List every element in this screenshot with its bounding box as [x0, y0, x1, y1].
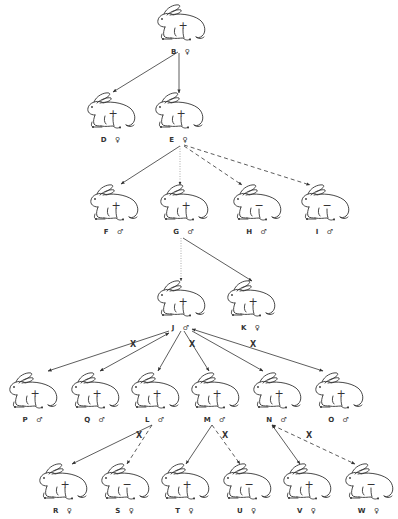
marker-plus-icon: + — [152, 387, 161, 400]
x-mark: X — [130, 340, 136, 349]
node-i: − I ♂ — [296, 182, 356, 240]
marker-plus-icon: + — [304, 478, 313, 491]
node-w: − W ♀ — [340, 461, 398, 519]
node-label: T ♀ — [156, 507, 216, 515]
node-label: D ♀ — [82, 136, 142, 144]
node-d: + D ♀ — [82, 90, 142, 148]
rabbit-icon: + — [156, 461, 216, 505]
rabbit-icon: + — [222, 278, 282, 322]
marker-minus-icon: − — [244, 478, 253, 491]
marker-minus-icon: − — [322, 199, 331, 212]
marker-plus-icon: + — [212, 387, 221, 400]
node-label: B ♀ — [152, 48, 212, 56]
rabbit-icon: − — [218, 461, 278, 505]
marker-plus-icon: + — [111, 199, 120, 212]
rabbit-icon: + — [248, 370, 308, 414]
node-label: H ♂ — [228, 228, 288, 236]
rabbit-icon: + — [150, 90, 210, 134]
marker-plus-icon: + — [30, 387, 39, 400]
node-label: M ♂ — [186, 416, 246, 424]
node-label: K ♀ — [222, 324, 282, 332]
node-g: + G ♂ — [155, 182, 215, 240]
node-b: + B ♀ — [152, 2, 212, 60]
rabbit-icon: + — [4, 370, 64, 414]
node-v: + V ♀ — [278, 461, 338, 519]
rabbit-icon: + — [310, 370, 370, 414]
node-label: O ♂ — [310, 416, 370, 424]
node-o: + O ♂ — [310, 370, 370, 428]
node-j: + J ♂ — [152, 278, 212, 336]
marker-plus-icon: + — [182, 478, 191, 491]
marker-plus-icon: + — [178, 295, 187, 308]
node-label: W ♀ — [340, 507, 398, 515]
rabbit-icon: + — [152, 278, 212, 322]
marker-minus-icon: − — [122, 478, 131, 491]
rabbit-icon: + — [82, 90, 142, 134]
rabbit-icon: + — [278, 461, 338, 505]
node-u: − U ♀ — [218, 461, 278, 519]
node-label: J ♂ — [152, 324, 212, 332]
marker-plus-icon: + — [92, 387, 101, 400]
marker-plus-icon: + — [336, 387, 345, 400]
marker-plus-icon: + — [108, 107, 117, 120]
edge-e-i — [184, 145, 310, 185]
node-label: U ♀ — [218, 507, 278, 515]
rabbit-icon: − — [228, 182, 288, 226]
marker-plus-icon: + — [178, 19, 187, 32]
rabbit-icon: + — [155, 182, 215, 226]
node-h: − H ♂ — [228, 182, 288, 240]
marker-minus-icon: − — [254, 199, 263, 212]
edge-e-h — [184, 146, 242, 185]
node-label: Q ♂ — [66, 416, 126, 424]
node-label: F ♂ — [85, 228, 145, 236]
marker-minus-icon: − — [366, 478, 375, 491]
rabbit-icon: + — [85, 182, 145, 226]
x-mark: X — [189, 340, 195, 349]
marker-plus-icon: + — [248, 295, 257, 308]
rabbit-icon: − — [96, 461, 156, 505]
node-p: + P ♂ — [4, 370, 64, 428]
edge-n-v — [272, 425, 300, 464]
edge-g-k — [183, 238, 252, 281]
edge-n-w — [272, 425, 355, 464]
node-label: E ♀ — [150, 136, 210, 144]
marker-plus-icon: + — [176, 107, 185, 120]
node-label: G ♂ — [155, 228, 215, 236]
node-label: P ♂ — [4, 416, 64, 424]
node-label: S ♀ — [96, 507, 156, 515]
node-k: + K ♀ — [222, 278, 282, 336]
x-mark: X — [250, 340, 256, 349]
rabbit-icon: + — [34, 461, 94, 505]
node-q: + Q ♂ — [66, 370, 126, 428]
marker-plus-icon: + — [60, 478, 69, 491]
x-mark: X — [306, 431, 312, 440]
edge-j-q — [100, 333, 169, 371]
rabbit-icon: + — [66, 370, 126, 414]
rabbit-icon: − — [296, 182, 356, 226]
node-r: + R ♀ — [34, 461, 94, 519]
edge-j-n — [192, 331, 263, 371]
edge-e-f — [121, 146, 180, 184]
rabbit-icon: + — [186, 370, 246, 414]
rabbit-icon: + — [126, 370, 186, 414]
node-label: N ♂ — [248, 416, 308, 424]
x-mark: X — [136, 431, 142, 440]
edge-m-t — [186, 425, 212, 464]
edge-j-m — [184, 331, 209, 371]
node-l: + L ♂ — [126, 370, 186, 428]
rabbit-icon: + — [152, 2, 212, 46]
node-n: + N ♂ — [248, 370, 308, 428]
marker-plus-icon: + — [181, 199, 190, 212]
node-s: − S ♀ — [96, 461, 156, 519]
node-e: + E ♀ — [150, 90, 210, 148]
node-f: + F ♂ — [85, 182, 145, 240]
node-label: I ♂ — [296, 228, 356, 236]
node-label: L ♂ — [126, 416, 186, 424]
rabbit-icon: − — [340, 461, 398, 505]
node-label: R ♀ — [34, 507, 94, 515]
edge-j-p — [48, 331, 169, 371]
node-t: + T ♀ — [156, 461, 216, 519]
node-label: V ♀ — [278, 507, 338, 515]
marker-plus-icon: + — [274, 387, 283, 400]
